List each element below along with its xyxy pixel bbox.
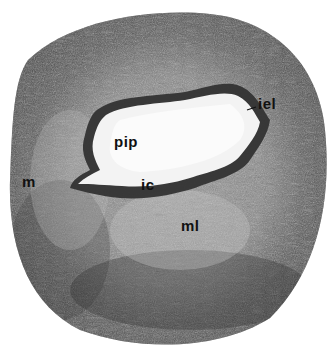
label-pip: pip (114, 134, 138, 149)
label-m: m (22, 174, 36, 189)
artery-cross-section-image (0, 0, 329, 354)
micrograph: iel pip ic m ml (0, 0, 329, 354)
label-ic: ic (141, 177, 155, 192)
label-iel: iel (258, 96, 276, 111)
label-ml: ml (181, 218, 200, 233)
